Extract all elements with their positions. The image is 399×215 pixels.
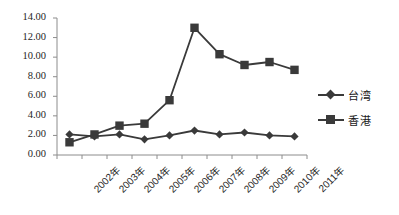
y-axis-tick-label: 8.00 <box>6 71 46 82</box>
data-point-marker <box>215 130 223 138</box>
y-axis-tick-label: 12.00 <box>6 32 46 43</box>
data-point-marker <box>190 126 198 134</box>
y-axis-tick-label: 4.00 <box>6 110 46 121</box>
x-axis-ticks <box>57 155 307 159</box>
data-point-marker <box>165 131 173 139</box>
legend-swatch <box>318 89 344 101</box>
y-axis-tick-label: 10.00 <box>6 51 46 62</box>
legend-swatch <box>318 114 344 126</box>
data-point-marker <box>115 130 123 138</box>
data-point-marker <box>215 50 223 58</box>
series-diamond <box>65 126 298 143</box>
y-axis-tick-label: 0.00 <box>6 149 46 160</box>
data-point-marker <box>65 138 73 146</box>
data-point-marker <box>265 58 273 66</box>
data-point-marker <box>90 130 98 138</box>
data-point-marker <box>240 61 248 69</box>
legend-label: 台湾 <box>348 87 371 103</box>
y-axis-tick-label: 14.00 <box>6 12 46 23</box>
y-axis-tick-label: 6.00 <box>6 90 46 101</box>
legend-diamond-marker-icon <box>326 90 336 100</box>
data-point-marker <box>265 131 273 139</box>
legend-square-marker-icon <box>326 115 335 124</box>
y-axis-tick-label: 2.00 <box>6 129 46 140</box>
data-point-marker <box>140 135 148 143</box>
legend-item[interactable]: 香港 <box>318 107 398 132</box>
legend-item[interactable]: 台湾 <box>318 82 398 107</box>
data-point-marker <box>165 96 173 104</box>
y-axis-ticks <box>53 18 57 155</box>
data-series-group <box>65 24 298 147</box>
legend-label: 香港 <box>348 112 371 128</box>
series-line <box>70 28 295 143</box>
series-square <box>65 24 298 147</box>
data-point-marker <box>190 24 198 32</box>
data-point-marker <box>140 119 148 127</box>
data-point-marker <box>290 132 298 140</box>
data-point-marker <box>290 66 298 74</box>
data-point-marker <box>240 128 248 136</box>
chart-legend: 台湾香港 <box>318 82 398 132</box>
line-chart: 0.002.004.006.008.0010.0012.0014.00 2002… <box>0 0 399 215</box>
data-point-marker <box>115 121 123 129</box>
data-point-marker <box>65 130 73 138</box>
